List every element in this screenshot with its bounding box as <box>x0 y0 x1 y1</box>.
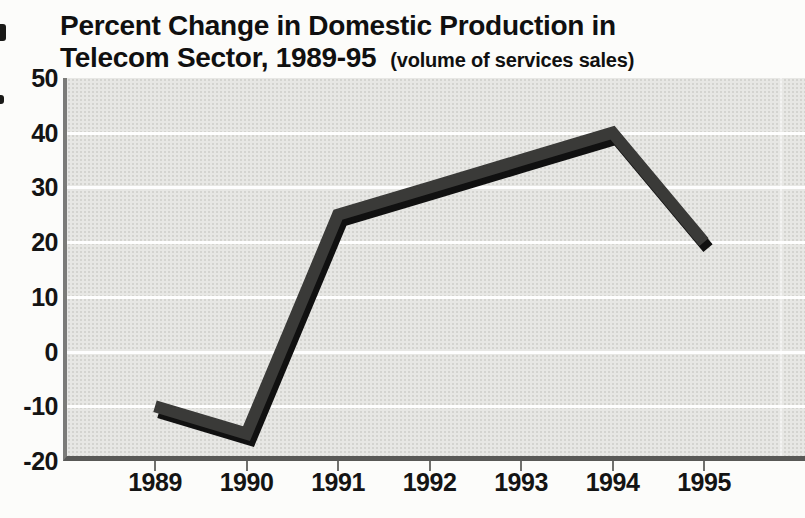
chart-title: Percent Change in Domestic Production in… <box>60 10 634 76</box>
x-tick-label-1994: 1994 <box>567 468 659 497</box>
chart-subtitle: (volume of services sales) <box>390 49 634 71</box>
chart-title-line1: Percent Change in Domestic Production in <box>60 10 634 42</box>
x-tick-label-1989: 1989 <box>109 468 201 497</box>
x-tick-label-1990: 1990 <box>201 468 293 497</box>
chart-title-line2: Telecom Sector, 1989-95(volume of servic… <box>60 42 634 76</box>
y-tick-label--10: -10 <box>0 391 58 421</box>
x-tick-label-1993: 1993 <box>475 468 567 497</box>
y-tick-label-30: 30 <box>0 172 58 202</box>
y-tick-label-10: 10 <box>0 282 58 312</box>
chart-title-line2-text: Telecom Sector, 1989-95 <box>60 42 376 73</box>
gridline-10 <box>67 296 805 299</box>
x-tick-label-1995: 1995 <box>658 468 750 497</box>
gridline-30 <box>67 186 805 189</box>
y-tick-label--20: -20 <box>0 446 58 476</box>
x-tick-label-1992: 1992 <box>384 468 476 497</box>
gridline-40 <box>67 132 805 135</box>
y-tick-label-40: 40 <box>0 118 58 148</box>
gridline-20 <box>67 241 805 244</box>
scan-artifact-left-edge-2 <box>0 95 4 104</box>
plot-area <box>63 78 805 461</box>
gridline-0 <box>67 351 805 354</box>
x-tick-label-1991: 1991 <box>292 468 384 497</box>
y-tick-label-50: 50 <box>0 63 58 93</box>
y-tick-label-20: 20 <box>0 227 58 257</box>
gridline--10 <box>67 405 805 408</box>
y-tick-label-0: 0 <box>0 337 58 367</box>
scan-artifact-left-edge-1 <box>0 24 6 41</box>
